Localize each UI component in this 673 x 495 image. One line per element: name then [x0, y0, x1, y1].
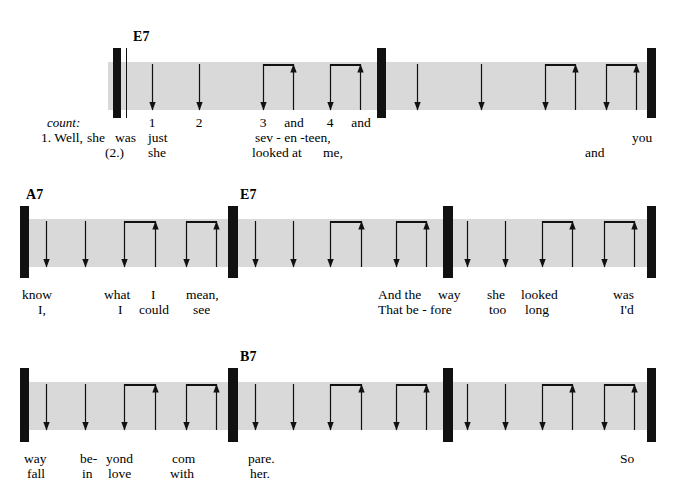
barline: [20, 368, 29, 442]
system-3: B7waybe-yondcompare.Sofallinlovewithher.: [0, 0, 673, 495]
downstroke-arrow: [287, 383, 300, 431]
downstroke-arrow: [390, 383, 403, 431]
barline: [443, 368, 453, 442]
upstroke-arrow: [210, 383, 223, 431]
upstroke-arrow: [355, 383, 368, 431]
upstroke-arrow: [149, 383, 162, 431]
downstroke-arrow: [118, 383, 131, 431]
downstroke-arrow: [79, 383, 92, 431]
lyric-verse-1: be-: [80, 452, 97, 466]
downstroke-arrow: [461, 383, 474, 431]
lyric-verse-2: love: [108, 467, 131, 481]
lyric-verse-2: in: [82, 467, 93, 481]
upstroke-arrow: [566, 383, 579, 431]
barline: [228, 368, 238, 442]
upstroke-arrow: [420, 383, 433, 431]
downstroke-arrow: [499, 383, 512, 431]
downstroke-arrow: [598, 383, 611, 431]
lyric-verse-2: fall: [27, 467, 45, 481]
chord-symbol: B7: [240, 350, 257, 364]
barline: [647, 368, 656, 442]
lyric-verse-1: com: [172, 452, 195, 466]
downstroke-arrow: [536, 383, 549, 431]
staff-band: [20, 382, 656, 430]
downstroke-arrow: [180, 383, 193, 431]
lyric-verse-1: way: [24, 452, 47, 466]
downstroke-arrow: [249, 383, 262, 431]
lyric-verse-1: pare.: [248, 452, 275, 466]
lyric-verse-1: So: [620, 452, 634, 466]
downstroke-arrow: [324, 383, 337, 431]
lyric-verse-1: yond: [106, 452, 133, 466]
count-label: count:: [47, 116, 80, 129]
lyric-verse-2: with: [170, 467, 194, 481]
lyric-verse-2: her.: [250, 467, 270, 481]
downstroke-arrow: [40, 383, 53, 431]
upstroke-arrow: [628, 383, 641, 431]
